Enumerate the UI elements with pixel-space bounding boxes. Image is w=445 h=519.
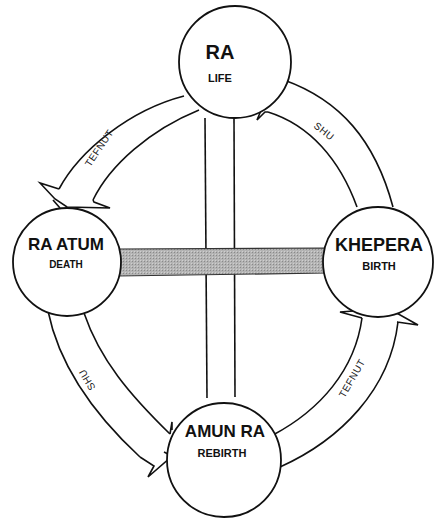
node-amun-ra-subtitle: REBIRTH [198,447,247,459]
label-shu-upper-right: SHU [312,120,337,143]
node-ra-subtitle: LIFE [208,72,232,84]
node-khepera: KHEPERA BIRTH [323,207,433,317]
cycle-diagram: SHU TEFNUT SHU TEFNUT RA LIFE KHEPERA BI… [0,0,445,519]
horizontal-shaded-bar [118,248,326,276]
arrow-tefnut-upper-left [40,96,199,208]
node-ra-title: RA [206,41,235,63]
label-tefnut-upper-left: TEFNUT [83,127,116,168]
node-khepera-title: KHEPERA [335,235,423,255]
node-ra-atum-title: RA ATUM [28,235,104,254]
node-amun-ra: AMUN RA REBIRTH [167,403,281,517]
node-ra-atum: RA ATUM DEATH [13,208,121,316]
node-ra: RA LIFE [179,6,291,118]
node-khepera-subtitle: BIRTH [362,260,396,272]
node-amun-ra-title: AMUN RA [185,422,265,441]
node-ra-atum-subtitle: DEATH [49,259,83,270]
label-shu-lower-left: SHU [77,367,98,392]
arrow-shu-lower-left [48,311,182,477]
label-tefnut-lower-right: TEFNUT [337,357,368,399]
